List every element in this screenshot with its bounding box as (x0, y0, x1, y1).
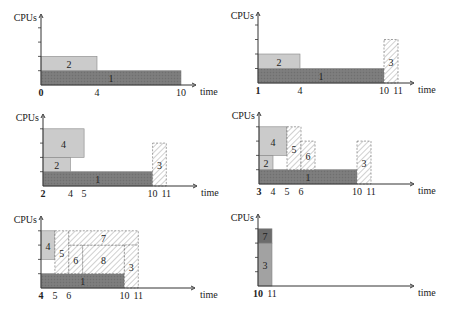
x-tick-label: 5 (52, 290, 57, 301)
job-6-label: 6 (73, 255, 78, 266)
schedule-panel-5: 1456873CPUstime4561011 (14, 214, 219, 301)
job-6-label: 6 (306, 151, 311, 162)
job-1-label: 1 (95, 174, 100, 185)
x-tick-label: 11 (267, 288, 277, 299)
job-3-label: 3 (129, 262, 134, 273)
job-7-label: 7 (263, 231, 268, 242)
y-axis-label: CPUs (231, 212, 254, 223)
job-3-label: 3 (157, 160, 162, 171)
x-tick-label: 5 (82, 188, 87, 199)
job-1-label: 1 (109, 73, 114, 84)
job-5-label: 5 (59, 248, 64, 259)
job-1-label: 1 (306, 172, 311, 183)
x-axis-label: time (418, 185, 436, 196)
x-tick-label: 11 (393, 85, 403, 96)
job-8-label: 8 (101, 255, 106, 266)
x-axis-label: time (200, 86, 218, 97)
schedule-diagram: 12CPUstime0410123CPUstime1410111243CPUst… (0, 0, 450, 311)
x-tick-label: 4 (298, 85, 303, 96)
x-tick-label: 10 (176, 87, 186, 98)
job-4-label: 4 (271, 137, 276, 148)
x-tick-label: 11 (133, 290, 143, 301)
y-axis-label: CPUs (231, 10, 254, 21)
x-tick-label: 10 (379, 85, 389, 96)
x-tick-label: 11 (366, 186, 376, 197)
current-time-label: 3 (257, 186, 262, 197)
x-axis-label: time (200, 289, 218, 300)
x-tick-label: 11 (161, 188, 171, 199)
x-tick-label: 6 (66, 290, 71, 301)
job-2-label: 2 (54, 160, 59, 171)
job-2-label: 2 (264, 158, 269, 169)
x-axis-label: time (201, 187, 219, 198)
x-tick-label: 5 (285, 186, 290, 197)
x-tick-label: 4 (95, 87, 100, 98)
x-tick-label: 10 (148, 188, 158, 199)
x-tick-label: 10 (119, 290, 129, 301)
x-tick-label: 4 (271, 186, 276, 197)
schedule-panel-4: 124563CPUstime34561011 (232, 110, 437, 197)
job-4-label: 4 (61, 139, 66, 150)
current-time-label: 4 (39, 290, 44, 301)
x-tick-label: 4 (68, 188, 73, 199)
y-axis-label: CPUs (14, 12, 37, 23)
job-3-label: 3 (389, 57, 394, 68)
y-axis-label: CPUs (16, 112, 39, 123)
job-1-label: 1 (80, 276, 85, 287)
x-axis-label: time (418, 287, 436, 298)
schedule-panel-2: 123CPUstime141011 (231, 10, 437, 96)
current-time-label: 0 (39, 87, 44, 98)
x-axis-label: time (418, 84, 436, 95)
x-tick-label: 6 (299, 186, 304, 197)
job-3-label: 3 (263, 260, 268, 271)
job-1-label: 1 (319, 71, 324, 82)
schedule-panel-3: 1243CPUstime2451011 (16, 112, 220, 199)
schedule-panel-1: 12CPUstime0410 (14, 12, 219, 98)
y-axis-label: CPUs (14, 214, 37, 225)
schedule-panel-6: 37CPUstime1011 (231, 212, 437, 299)
job-2-label: 2 (67, 59, 72, 70)
job-4-label: 4 (45, 241, 50, 252)
x-tick-label: 10 (352, 186, 362, 197)
job-2-label: 2 (277, 57, 282, 68)
current-time-label: 2 (41, 188, 46, 199)
current-time-label: 1 (256, 85, 261, 96)
y-axis-label: CPUs (232, 110, 255, 121)
job-7-label: 7 (101, 233, 106, 244)
current-time-label: 10 (253, 288, 263, 299)
job-3-label: 3 (362, 158, 367, 169)
job-5-label: 5 (292, 144, 297, 155)
